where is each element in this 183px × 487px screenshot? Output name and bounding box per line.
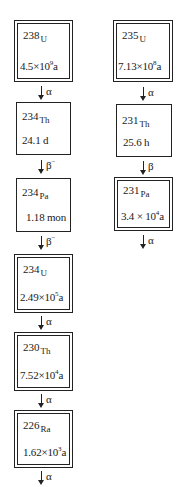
half-life: 1.18 mon [26, 211, 66, 223]
decay-arrow-alpha: α [143, 85, 173, 103]
mass-number: 238 [23, 29, 40, 41]
decay-arrow-alpha: α [143, 233, 173, 251]
nuclide-box-th231: 231Th 25.6 h [116, 104, 172, 157]
mass-number: 234 [22, 110, 39, 122]
mass-number: 234 [23, 263, 40, 275]
isotope-label: 231Pa [123, 184, 150, 199]
nuclide-box-pa234: 234Pa 1.18 mon [16, 178, 71, 232]
mass-number: 235 [122, 29, 139, 41]
decay-arrow-alpha: α [41, 84, 71, 102]
element-symbol: Pa [40, 191, 49, 201]
decay-arrow-alpha: α [41, 469, 71, 487]
element-symbol: Th [41, 346, 51, 356]
decay-label: α [46, 469, 52, 482]
half-life: 2.49×105a [20, 290, 63, 303]
isotope-label: 234Th [22, 110, 50, 125]
mass-number: 231 [123, 184, 140, 196]
nuclide-box-u234: 234U 2.49×105a [14, 254, 73, 313]
isotope-label: 231Th [122, 114, 150, 129]
element-symbol: Pa [141, 189, 150, 199]
isotope-label: 234U [23, 263, 47, 278]
decay-label: β− [46, 158, 56, 171]
decay-label: α [148, 233, 154, 246]
half-life: 25.6 h [123, 136, 149, 148]
decay-label: β [148, 159, 154, 172]
decay-label: β− [46, 234, 56, 247]
decay-label: α [46, 314, 52, 327]
nuclide-box-ra226: 226Ra 1.62×103a [14, 410, 73, 468]
half-life: 4.5×109a [20, 59, 58, 72]
decay-arrow-alpha: α [41, 392, 71, 410]
element-symbol: U [41, 34, 48, 44]
decay-label: α [148, 85, 154, 98]
decay-arrow-beta-minus: β− [41, 158, 71, 176]
half-life: 3.4 × 104a [121, 209, 164, 222]
mass-number: 234 [22, 186, 39, 198]
isotope-label: 230Th [23, 341, 51, 356]
element-symbol: Th [140, 119, 150, 129]
nuclide-box-u238: 238U 4.5×109a [14, 20, 73, 82]
element-symbol: Ra [41, 424, 51, 434]
mass-number: 230 [23, 341, 40, 353]
mass-number: 231 [122, 114, 139, 126]
isotope-label: 238U [23, 29, 47, 44]
decay-arrow-beta-minus: β− [41, 234, 71, 252]
element-symbol: Th [40, 115, 50, 125]
decay-label: α [46, 392, 52, 405]
decay-label: α [46, 84, 52, 97]
decay-arrow-alpha: α [41, 314, 71, 332]
nuclide-box-u235: 235U 7.13×108a [113, 20, 173, 82]
mass-number: 226 [23, 419, 40, 431]
half-life: 7.13×108a [118, 59, 161, 72]
element-symbol: U [41, 268, 48, 278]
nuclide-box-pa231: 231Pa 3.4 × 104a [114, 177, 173, 231]
nuclide-box-th230: 230Th 7.52×104a [14, 332, 73, 391]
decay-arrow-beta: β [143, 159, 173, 177]
isotope-label: 235U [122, 29, 146, 44]
nuclide-box-th234: 234Th 24.1 d [16, 102, 71, 155]
isotope-label: 226Ra [23, 419, 51, 434]
half-life: 7.52×104a [20, 368, 63, 381]
half-life: 1.62×103a [23, 445, 66, 458]
half-life: 24.1 d [22, 134, 48, 146]
isotope-label: 234Pa [22, 186, 49, 201]
element-symbol: U [140, 34, 147, 44]
